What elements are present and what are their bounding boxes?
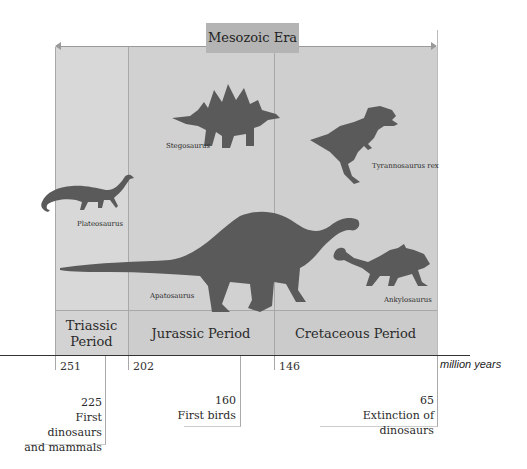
era-label: Mesozoic Era	[206, 23, 299, 53]
event-value: 65	[316, 393, 434, 408]
event-65: 65 Extinction of dinosaurs	[316, 393, 434, 438]
period-label-triassic: Triassic Period	[55, 318, 128, 350]
dino-label-tyrannosaurus: Tyrannosaurus rex	[372, 162, 439, 170]
dino-label-ankylosaurus: Ankylosaurus	[384, 296, 432, 304]
divider-era-end	[437, 30, 438, 355]
dino-label-stegosaurus: Stegosaurus	[166, 142, 210, 150]
event-value: 160	[170, 393, 236, 408]
event-text: and mammals	[20, 440, 102, 455]
event-value: 225	[20, 395, 102, 410]
tyrannosaurus-icon	[308, 104, 413, 184]
tick-label-146: 146	[279, 360, 300, 373]
arrow-right-icon	[431, 42, 437, 50]
period-label-jurassic: Jurassic Period	[128, 326, 274, 342]
event-text: First birds	[170, 408, 236, 423]
arrow-left-icon	[55, 42, 61, 50]
apatosaurus-icon	[60, 208, 360, 320]
period-label-line: Triassic	[55, 318, 128, 334]
axis-unit-label: million years	[440, 358, 501, 370]
tick-label-202: 202	[133, 360, 154, 373]
period-label-cretaceous: Cretaceous Period	[274, 326, 437, 342]
ankylosaurus-icon	[332, 242, 432, 290]
event-225: 225 First dinosaurs and mammals	[20, 395, 102, 455]
period-label-line: Period	[55, 334, 128, 350]
event-text: First dinosaurs	[20, 410, 102, 440]
event-text: Extinction of dinosaurs	[316, 408, 434, 438]
event-160: 160 First birds	[170, 393, 236, 423]
dino-label-apatosaurus: Apatosaurus	[150, 292, 194, 300]
